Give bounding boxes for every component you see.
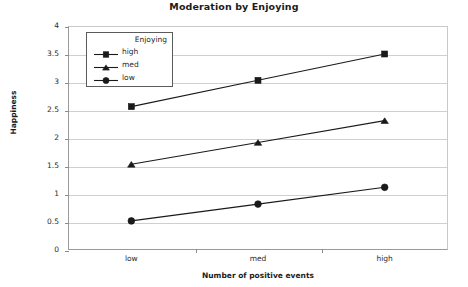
y-tick-mark <box>65 139 69 140</box>
x-tick-label: high <box>355 254 415 263</box>
y-tick-mark <box>65 83 69 84</box>
y-tick-mark <box>65 55 69 56</box>
x-tick-mark <box>196 249 197 253</box>
y-tick-label: 3.5 <box>31 49 59 58</box>
legend-label: low <box>122 73 135 82</box>
legend-item-low[interactable]: low <box>87 72 172 85</box>
legend: Enjoying highmedlow <box>86 32 173 87</box>
legend-label: high <box>122 47 138 56</box>
y-tick-mark <box>65 27 69 28</box>
legend-item-high[interactable]: high <box>87 46 172 59</box>
y-tick-label: 0 <box>31 245 59 254</box>
y-tick-mark <box>65 111 69 112</box>
y-axis-label: Happiness <box>9 78 18 148</box>
gridline <box>69 223 447 224</box>
gridline <box>69 139 447 140</box>
legend-marker-square-icon <box>93 46 119 59</box>
legend-title: Enjoying <box>135 35 167 44</box>
y-tick-label: 1.5 <box>31 161 59 170</box>
legend-marker-triangle-icon <box>93 59 119 72</box>
y-tick-mark <box>65 251 69 252</box>
x-tick-mark <box>322 249 323 253</box>
y-tick-label: 2.5 <box>31 105 59 114</box>
y-tick-label: 1 <box>31 189 59 198</box>
x-tick-label: med <box>228 254 288 263</box>
x-axis-label: Number of positive events <box>68 271 448 280</box>
y-tick-mark <box>65 195 69 196</box>
gridline <box>69 111 447 112</box>
legend-item-med[interactable]: med <box>87 59 172 72</box>
line-chart: Moderation by Enjoying Happiness 00.511.… <box>0 0 468 287</box>
y-tick-label: 2 <box>31 133 59 142</box>
gridline <box>69 167 447 168</box>
y-tick-mark <box>65 167 69 168</box>
y-tick-label: 4 <box>31 21 59 30</box>
y-tick-label: 0.5 <box>31 217 59 226</box>
legend-label: med <box>122 60 139 69</box>
y-tick-mark <box>65 223 69 224</box>
x-tick-label: low <box>101 254 161 263</box>
chart-title: Moderation by Enjoying <box>0 1 468 12</box>
legend-marker-circle-icon <box>93 72 119 85</box>
gridline <box>69 195 447 196</box>
y-tick-label: 3 <box>31 77 59 86</box>
